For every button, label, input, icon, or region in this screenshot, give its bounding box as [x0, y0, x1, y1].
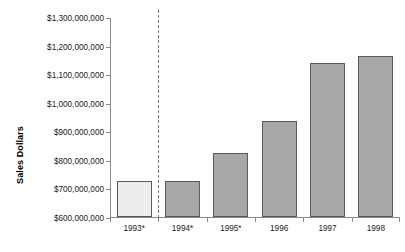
- bar-1997: [310, 63, 345, 217]
- x-axis-tick-mark: [352, 218, 353, 222]
- x-axis-tick-mark: [399, 218, 400, 222]
- y-axis-tick-label: $700,000,000: [4, 185, 104, 194]
- y-axis-tick-labels: $600,000,000$700,000,000$800,000,000$900…: [0, 0, 104, 252]
- y-axis-tick-mark: [106, 18, 110, 19]
- x-axis-tick-label: 1995*: [220, 224, 241, 233]
- x-axis-tick-mark: [207, 218, 208, 222]
- y-axis-tick-label: $1,200,000,000: [4, 42, 104, 51]
- y-axis-tick-label: $800,000,000: [4, 156, 104, 165]
- y-axis-tick-label: $1,000,000,000: [4, 99, 104, 108]
- bar-chart: Sales Dollars $600,000,000$700,000,000$8…: [0, 0, 405, 252]
- x-axis-tick-label: 1996: [270, 224, 288, 233]
- y-axis-tick-mark: [106, 104, 110, 105]
- y-axis-tick-mark: [106, 161, 110, 162]
- bar-1996: [262, 121, 297, 217]
- bar-1994-est: [165, 181, 200, 217]
- y-axis-tick-mark: [106, 132, 110, 133]
- bar-1995-est: [213, 153, 248, 217]
- y-axis-tick-label: $1,100,000,000: [4, 71, 104, 80]
- x-axis-tick-label: 1993*: [123, 224, 144, 233]
- bar-1998: [358, 56, 393, 217]
- y-axis-tick-mark: [106, 75, 110, 76]
- x-axis-tick-mark: [158, 218, 159, 222]
- estimate-divider-line: [158, 10, 159, 218]
- y-axis-tick-label: $600,000,000: [4, 214, 104, 223]
- y-axis-tick-label: $1,300,000,000: [4, 14, 104, 23]
- x-axis-tick-label: 1998: [367, 224, 385, 233]
- x-axis-tick-mark: [110, 218, 111, 222]
- x-axis-tick-label: 1997: [318, 224, 336, 233]
- x-axis-tick-mark: [303, 218, 304, 222]
- plot-area: [110, 18, 400, 218]
- x-axis-tick-label: 1994*: [172, 224, 193, 233]
- bar-1993-est: [117, 181, 152, 217]
- x-axis-tick-mark: [255, 218, 256, 222]
- y-axis-tick-mark: [106, 189, 110, 190]
- y-axis-tick-mark: [106, 47, 110, 48]
- y-axis-line: [110, 18, 111, 218]
- y-axis-tick-label: $900,000,000: [4, 128, 104, 137]
